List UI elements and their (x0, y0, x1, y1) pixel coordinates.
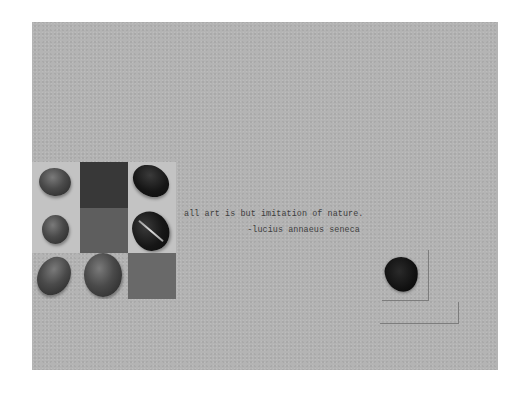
black-oval-pebble-icon (128, 162, 175, 203)
grid-cell-light (32, 162, 80, 208)
gray-pebble-icon (37, 165, 73, 198)
quote-text: all art is but imitation of nature. (184, 206, 368, 222)
oval-pebble-icon (32, 253, 78, 299)
gray-pebble-icon (42, 215, 69, 244)
large-round-pebble-icon (84, 253, 122, 297)
grid-cell-dark (80, 162, 128, 208)
frame-line-lower (380, 302, 459, 324)
grid-cell-blank (32, 253, 80, 299)
coffee-bean-crease (138, 220, 164, 242)
grid-cell-light (128, 162, 176, 208)
card-background: all art is but imitation of nature. -luc… (32, 22, 498, 370)
grid-cell-light (32, 208, 80, 253)
pebble-grid (32, 162, 176, 299)
quote-block: all art is but imitation of nature. -luc… (184, 206, 368, 238)
grid-cell-light (128, 208, 176, 253)
grid-cell-blank (80, 253, 128, 299)
grid-cell-medium (80, 208, 128, 253)
quote-attribution: -lucius annaeus seneca (184, 222, 368, 238)
coffee-bean-icon (128, 208, 175, 253)
grid-cell-medium-dark (128, 253, 176, 299)
